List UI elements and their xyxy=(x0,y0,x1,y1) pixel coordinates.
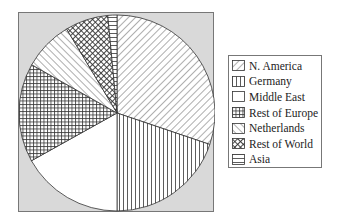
legend-item: Netherlands xyxy=(232,120,321,136)
legend-swatch-horizontal-icon xyxy=(232,154,245,165)
legend-item: Asia xyxy=(232,152,321,168)
legend-item: Germany xyxy=(232,74,321,90)
legend-swatch-crosshatch-diagonal-icon xyxy=(232,138,245,149)
legend-swatch-diagonal-up-icon xyxy=(232,123,245,134)
legend-label: Rest of World xyxy=(249,138,313,150)
legend-swatch-grid-icon xyxy=(232,107,245,118)
legend-label: Netherlands xyxy=(249,122,305,134)
legend-item: Middle East xyxy=(232,89,321,105)
legend-swatch-diagonal-down-icon xyxy=(232,60,245,71)
legend-label: Asia xyxy=(249,153,270,165)
legend-label: Rest of Europe xyxy=(249,107,318,119)
legend-swatch-vertical-icon xyxy=(232,76,245,87)
legend: N. AmericaGermanyMiddle EastRest of Euro… xyxy=(228,55,322,168)
legend-swatch-none-icon xyxy=(232,91,245,102)
legend-item: Rest of Europe xyxy=(232,105,321,121)
legend-label: Germany xyxy=(249,75,292,87)
pie-chart xyxy=(19,13,215,213)
legend-item: Rest of World xyxy=(232,136,321,152)
legend-label: Middle East xyxy=(249,91,305,103)
chart-frame xyxy=(18,12,214,212)
legend-label: N. America xyxy=(249,60,302,72)
legend-item: N. America xyxy=(232,58,321,74)
